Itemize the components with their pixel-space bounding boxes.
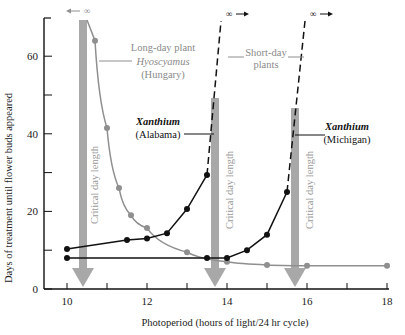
chart: 10121416180204060 Long-day plant Hyoscya… (0, 0, 405, 335)
point-hyoscyamus (128, 212, 134, 218)
annotations: Long-day plant Hyoscyamus (Hungary) Shor… (3, 6, 371, 329)
point-alabama (144, 236, 150, 242)
critical-arrow-shaft (291, 108, 299, 270)
label-alabama: (Alabama) (136, 129, 181, 141)
infinity-marker-michigan: ∞ (310, 9, 316, 19)
x-tick-label: 18 (382, 295, 394, 307)
y-tick-label: 20 (27, 205, 39, 217)
point-hyoscyamus (144, 225, 150, 231)
arrow-right-icon (244, 12, 249, 17)
point-michigan (264, 232, 270, 238)
point-michigan (64, 255, 70, 261)
critical-arrow-head (204, 268, 226, 287)
point-hyoscyamus (304, 263, 310, 269)
y-tick-label: 0 (33, 283, 39, 295)
label-long-day: Long-day plant (131, 42, 196, 53)
y-tick-label: 60 (27, 50, 39, 62)
critical-arrow-shaft (79, 20, 87, 270)
point-hyoscyamus (384, 263, 390, 269)
critical-arrow-head (72, 268, 94, 287)
point-alabama (184, 206, 190, 212)
point-michigan (204, 255, 210, 261)
arrow-right-icon (328, 12, 333, 17)
label-hyoscyamus: Hyoscyamus (135, 56, 189, 67)
label-xanthium-michigan: Xanthium (324, 121, 369, 132)
x-tick-label: 14 (222, 295, 234, 307)
arrow-left-icon (66, 9, 71, 14)
series-michigan (67, 192, 287, 258)
label-short-day: Short-day (245, 47, 287, 58)
critical-arrow-head (284, 268, 306, 287)
label-xanthium-alabama: Xanthium (135, 116, 180, 127)
x-axis-label: Photoperiod (hours of light/24 hr cycle) (141, 317, 309, 329)
series-alabama (67, 175, 207, 249)
critical-label-2: Critical day length (224, 150, 235, 229)
point-hyoscyamus (264, 262, 270, 268)
y-axis-label: Days of treatment until flower buds appe… (3, 92, 14, 283)
label-michigan: (Michigan) (323, 134, 371, 146)
infinity-marker-alabama: ∞ (226, 9, 232, 19)
critical-arrow-shaft (211, 98, 219, 270)
x-tick-label: 10 (62, 295, 74, 307)
point-michigan (244, 247, 250, 253)
point-hyoscyamus (92, 38, 98, 44)
point-alabama (124, 237, 130, 243)
x-tick-label: 12 (142, 295, 153, 307)
label-plants: plants (253, 59, 278, 70)
critical-label-3: Critical day length (304, 150, 315, 229)
infinity-marker-hyoscyamus: ∞ (84, 6, 90, 16)
point-alabama (164, 230, 170, 236)
point-hyoscyamus (116, 185, 122, 191)
point-alabama (64, 246, 70, 252)
y-tick-label: 40 (27, 128, 39, 140)
label-hungary: (Hungary) (141, 69, 185, 81)
critical-label-1: Critical day length (89, 145, 100, 224)
point-hyoscyamus (104, 125, 110, 131)
point-hyoscyamus (184, 249, 190, 255)
point-michigan (224, 255, 230, 261)
x-tick-label: 16 (302, 295, 314, 307)
